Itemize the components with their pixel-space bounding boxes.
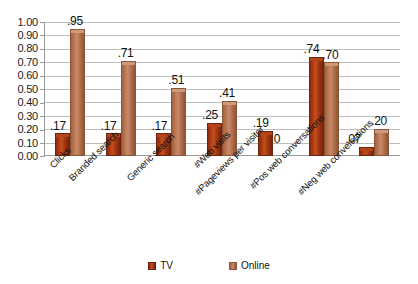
legend-label: Online xyxy=(241,261,270,271)
y-axis-tick-label: 0.40 xyxy=(0,97,38,108)
y-axis-tick-label: 0.90 xyxy=(0,30,38,41)
bar-group: .17 .95 xyxy=(45,22,96,156)
bar-highlight xyxy=(375,130,388,133)
bar-value-label: .70 xyxy=(323,49,339,61)
legend-item-tv[interactable]: TV xyxy=(148,261,173,271)
bar-online[interactable] xyxy=(171,88,186,156)
legend-swatch-icon xyxy=(148,262,156,270)
bar-online[interactable] xyxy=(324,62,339,156)
bar-highlight xyxy=(360,148,373,151)
y-axis-tick-label: 0.60 xyxy=(0,70,38,81)
y-axis-tick-label: 0.70 xyxy=(0,57,38,68)
y-axis-tick-label: 0.00 xyxy=(0,151,38,162)
chart-legend: TV Online xyxy=(0,258,418,274)
bar-value-label: .41 xyxy=(219,87,235,99)
bar-online[interactable] xyxy=(121,61,136,156)
bar-value-label: .74 xyxy=(304,43,320,55)
bar-chart: 1.00 0.90 0.80 0.70 0.60 0.50 0.40 0.30 … xyxy=(0,0,418,284)
legend-swatch-icon xyxy=(229,262,237,270)
y-axis-tick-label: 0.30 xyxy=(0,111,38,122)
bar-value-label: .71 xyxy=(118,47,134,59)
bar-value-label: .17 xyxy=(50,120,66,132)
bar-online[interactable] xyxy=(70,29,85,156)
bar-highlight xyxy=(56,134,69,137)
bar-value-label: .25 xyxy=(202,109,218,121)
bar-online[interactable] xyxy=(374,129,389,156)
y-axis-tick-label: 0.50 xyxy=(0,84,38,95)
bar-tv[interactable] xyxy=(309,57,324,156)
bar-value-label: 0 xyxy=(274,133,280,145)
bar-highlight xyxy=(208,124,221,127)
y-axis-tick-label: 0.80 xyxy=(0,43,38,54)
bar-value-label: .51 xyxy=(168,74,184,86)
y-axis-tick-label: 0.20 xyxy=(0,124,38,135)
bar-highlight xyxy=(325,63,338,66)
legend-item-online[interactable]: Online xyxy=(229,261,270,271)
y-axis-labels: 1.00 0.90 0.80 0.70 0.60 0.50 0.40 0.30 … xyxy=(0,0,38,284)
y-axis-tick-label: 1.00 xyxy=(0,17,38,28)
bar-tv[interactable] xyxy=(359,147,374,156)
bar-group: .17 .71 xyxy=(96,22,147,156)
bar-highlight xyxy=(223,102,236,105)
bar-highlight xyxy=(310,58,323,61)
bar-highlight xyxy=(172,89,185,92)
bar-value-label: .17 xyxy=(151,120,167,132)
legend-label: TV xyxy=(160,261,173,271)
bar-highlight xyxy=(122,62,135,65)
bar-highlight xyxy=(71,30,84,33)
bar-value-label: .95 xyxy=(67,15,83,27)
y-axis-tick-label: 0.10 xyxy=(0,138,38,149)
